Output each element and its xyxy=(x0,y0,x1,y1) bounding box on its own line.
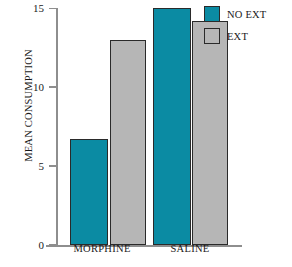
bar-morphine-no-ext xyxy=(70,139,108,245)
y-tick-5: 5 xyxy=(49,165,56,167)
y-tick-15: 15 xyxy=(49,8,56,10)
y-tick-label-0: 0 xyxy=(39,239,45,251)
x-category-label-saline: SALINE xyxy=(148,243,232,254)
bar-saline-no-ext xyxy=(153,8,191,245)
legend-swatch-no-ext xyxy=(204,6,220,22)
y-tick-label-10: 10 xyxy=(33,81,44,93)
y-tick-label-15: 15 xyxy=(33,2,44,14)
bar-morphine-ext xyxy=(110,40,146,245)
bar-chart: MEAN CONSUMPTION 0 5 10 15 MORPHINE SALI… xyxy=(0,0,292,267)
legend-item-no-ext: NO EXT xyxy=(204,4,288,24)
bar-saline-ext xyxy=(192,21,228,245)
x-category-label-morphine: MORPHINE xyxy=(58,243,146,254)
legend-label-ext: EXT xyxy=(227,31,248,42)
y-axis-title: MEAN CONSUMPTION xyxy=(23,16,34,196)
y-axis-line xyxy=(56,8,58,245)
legend-item-ext: EXT xyxy=(204,26,288,46)
y-tick-label-5: 5 xyxy=(39,160,45,172)
y-tick-10: 10 xyxy=(49,86,56,88)
legend-label-no-ext: NO EXT xyxy=(227,9,266,20)
legend: NO EXT EXT xyxy=(204,4,288,48)
y-tick-0: 0 xyxy=(49,244,56,246)
legend-swatch-ext xyxy=(204,28,220,44)
